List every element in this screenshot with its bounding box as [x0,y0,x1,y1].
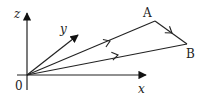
x-axis-label: x [138,82,145,96]
point-a-label: A [142,6,152,20]
origin-label: 0 [15,79,23,93]
segment-origin-to-b [27,44,187,75]
y-axis-label: y [59,22,67,36]
segment-origin-to-a [27,21,155,75]
y-axis [27,35,78,75]
z-axis-label: z [13,7,21,21]
coordinate-diagram: z y x 0 A B [0,0,208,99]
point-b-label: B [186,47,195,61]
